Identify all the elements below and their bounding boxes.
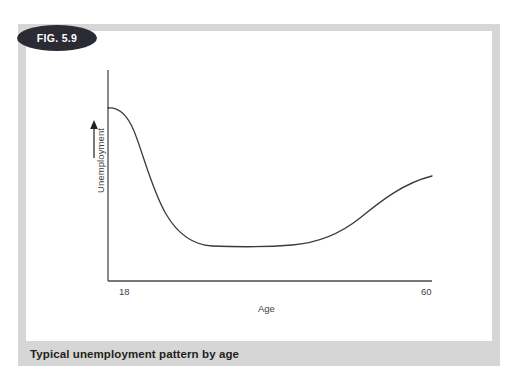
x-tick-label-18: 18 — [119, 286, 130, 297]
figure-number-label: FIG. 5.9 — [37, 32, 77, 44]
figure-caption-text: Typical unemployment pattern by age — [30, 348, 239, 360]
x-axis-title: Age — [258, 303, 275, 314]
x-tick-label-60: 60 — [421, 286, 432, 297]
figure-caption-band: Typical unemployment pattern by age — [18, 341, 500, 366]
y-axis-title: Unemployment — [95, 101, 106, 221]
figure-number-badge: FIG. 5.9 — [17, 25, 97, 51]
